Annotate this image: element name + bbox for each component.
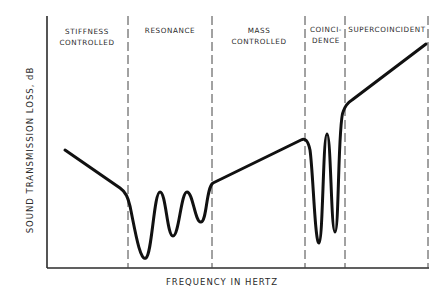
region-label-coincidence-line2: DENCE: [312, 36, 340, 45]
region-label-stiffness-line1: STIFFNESS: [65, 27, 109, 36]
transmission-loss-curve: [65, 44, 426, 258]
region-label-resonance: RESONANCE: [145, 26, 195, 35]
transmission-loss-diagram: STIFFNESS CONTROLLED RESONANCE MASS CONT…: [0, 0, 447, 291]
region-label-mass-line2: CONTROLLED: [231, 37, 286, 46]
y-axis-label: SOUND TRANSMISSION LOSS, dB: [25, 67, 35, 234]
region-label-supercoincident: SUPERCOINCIDENT: [348, 25, 426, 34]
x-axis-label: FREQUENCY IN HERTZ: [166, 277, 278, 287]
region-label-coincidence-line1: COINCI-: [310, 25, 342, 34]
region-label-mass-line1: MASS: [248, 26, 271, 35]
region-label-stiffness-line2: CONTROLLED: [59, 38, 114, 47]
